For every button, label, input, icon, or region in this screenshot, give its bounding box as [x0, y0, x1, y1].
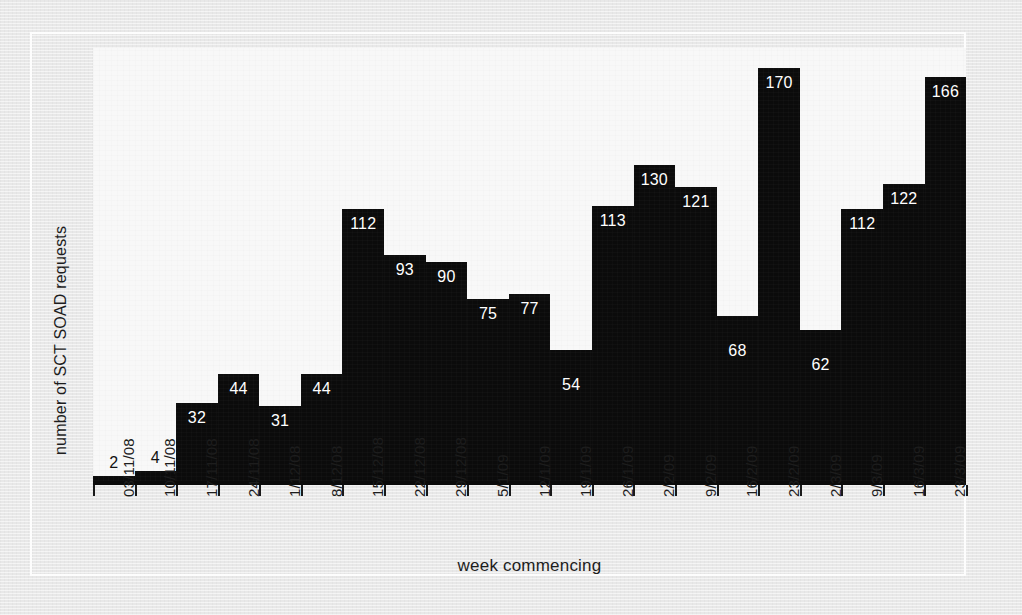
x-tick-label-29/12/08: 29/12/08 [452, 437, 469, 497]
x-tick-label-19/1/09: 19/1/09 [577, 446, 594, 497]
y-axis-title: number of SCT SOAD requests [52, 155, 70, 455]
x-tick-label-15/12/08: 15/12/08 [369, 437, 386, 497]
bar-23/2/09: 170 [758, 68, 800, 481]
x-tick-label-5/1/09: 5/1/09 [494, 454, 511, 497]
bar-value-label: 90 [426, 268, 468, 286]
plot-area: 2432443144112939075775411313012168170621… [93, 48, 966, 481]
bar-value-label: 112 [342, 215, 384, 233]
x-tick-label-16/2/09: 16/2/09 [743, 446, 760, 497]
x-tick-label-1/12/08: 1/12/08 [286, 446, 303, 497]
x-tick-label-2/2/09: 2/2/09 [660, 454, 677, 497]
x-tick-label-23/3/09: 23/3/09 [951, 446, 968, 497]
bar-value-label: 130 [634, 171, 676, 189]
bar-value-label: 166 [925, 83, 967, 101]
x-tick-label-12/1/09: 12/1/09 [536, 446, 553, 497]
bar-value-label: 32 [176, 409, 218, 427]
x-tick-label-9/2/09: 9/2/09 [702, 454, 719, 497]
bar-value-label: 113 [592, 212, 634, 230]
x-tick-label-17/11/08: 17/11/08 [203, 438, 220, 497]
bar-2/2/09: 130 [634, 165, 676, 481]
bar-16/3/09: 122 [883, 184, 925, 481]
bar-value-label: 68 [717, 342, 759, 360]
x-tick-label-26/1/09: 26/1/09 [619, 446, 636, 497]
x-tick-label-23/2/09: 23/2/09 [785, 446, 802, 497]
figure-background: 2432443144112939075775411313012168170621… [0, 0, 1022, 615]
bar-26/1/09: 113 [592, 206, 634, 481]
bar-value-label: 44 [301, 380, 343, 398]
bar-value-label: 31 [259, 412, 301, 430]
x-tick-label-8/12/08: 8/12/08 [328, 446, 345, 497]
bar-value-label: 62 [800, 356, 842, 374]
x-tick-label-24/11/08: 24/11/08 [245, 438, 262, 497]
bar-value-label: 77 [509, 300, 551, 318]
bar-23/3/09: 166 [925, 77, 967, 481]
bar-9/3/09: 112 [841, 209, 883, 481]
x-tick-label-10/11/08: 10/11/08 [161, 438, 178, 497]
bar-value-label: 112 [841, 215, 883, 233]
bar-value-label: 122 [883, 190, 925, 208]
bar-value-label: 93 [384, 261, 426, 279]
x-tick-label-22/12/08: 22/12/08 [411, 437, 428, 497]
bar-value-label: 170 [758, 74, 800, 92]
x-tick-label-9/3/09: 9/3/09 [868, 454, 885, 497]
x-tick-label-16/3/09: 16/3/09 [910, 446, 927, 497]
bar-value-label: 54 [550, 376, 592, 394]
bar-series: 2432443144112939075775411313012168170621… [93, 48, 966, 481]
x-tick [93, 485, 95, 496]
bar-value-label: 44 [218, 380, 260, 398]
x-axis-title: week commencing [93, 556, 966, 576]
x-tick-label-2/3/09: 2/3/09 [827, 454, 844, 497]
x-tick-label-03/11/08: 03/11/08 [120, 438, 137, 497]
bar-9/2/09: 121 [675, 187, 717, 481]
bar-value-label: 121 [675, 193, 717, 211]
bar-value-label: 75 [467, 305, 509, 323]
